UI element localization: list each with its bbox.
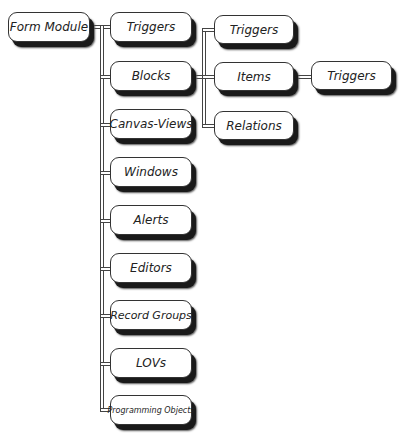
node-label: Record Groups: [110, 309, 192, 322]
node-item-triggers[interactable]: Triggers: [311, 61, 392, 90]
node-label: Form Module: [10, 20, 88, 34]
node-label: Items: [237, 70, 271, 84]
node-lovs[interactable]: LOVs: [110, 348, 192, 378]
node-alerts[interactable]: Alerts: [110, 205, 192, 235]
node-triggers[interactable]: Triggers: [110, 12, 192, 42]
node-label: Relations: [226, 119, 282, 133]
connector-items-triggers: [296, 75, 312, 79]
node-programming-objects[interactable]: Programming Objects: [110, 395, 192, 425]
node-blocks[interactable]: Blocks: [110, 61, 192, 91]
node-label: Blocks: [132, 69, 171, 83]
node-label: Alerts: [134, 213, 169, 227]
node-block-triggers[interactable]: Triggers: [214, 15, 294, 44]
node-editors[interactable]: Editors: [110, 253, 192, 283]
node-items[interactable]: Items: [214, 62, 294, 91]
node-label: LOVs: [136, 356, 166, 370]
node-label: Editors: [130, 261, 172, 275]
node-form-module[interactable]: Form Module: [8, 12, 90, 42]
connector-main-trunk: [100, 25, 104, 411]
node-windows[interactable]: Windows: [110, 157, 192, 187]
node-label: Windows: [124, 165, 178, 179]
node-label: Canvas-Views: [110, 117, 193, 131]
node-label: Triggers: [230, 23, 278, 37]
node-relations[interactable]: Relations: [214, 111, 294, 140]
node-label: Triggers: [327, 69, 375, 83]
node-record-groups[interactable]: Record Groups: [110, 300, 192, 330]
node-label: Triggers: [127, 20, 175, 34]
node-canvas-views[interactable]: Canvas-Views: [110, 109, 192, 139]
node-label: Programming Objects: [108, 406, 195, 415]
